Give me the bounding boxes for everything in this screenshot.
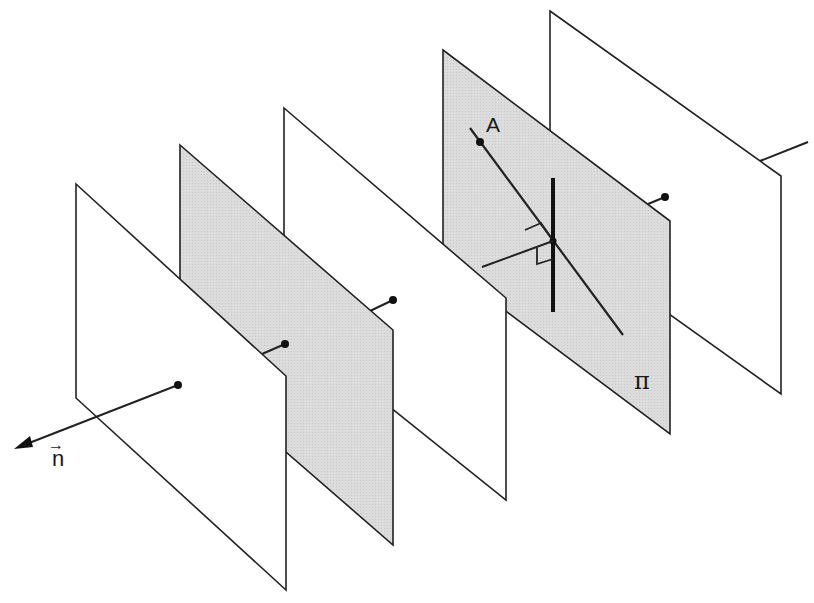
- parallel-planes-diagram: [0, 0, 814, 603]
- normal-point-2: [281, 340, 289, 348]
- arrowhead-icon: [14, 436, 33, 449]
- label-normal-vector: n: [52, 446, 64, 472]
- normal-point-3: [389, 296, 397, 304]
- normal-segment-5: [760, 142, 808, 161]
- normal-point-pi: [661, 193, 669, 201]
- label-plane-pi: π: [634, 367, 650, 395]
- normal-point-1: [174, 381, 182, 389]
- point-a: [476, 138, 484, 146]
- label-point-a: A: [486, 113, 500, 137]
